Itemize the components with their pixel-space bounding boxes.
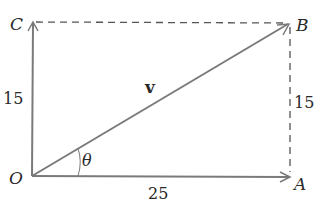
side-label-ab: 15 bbox=[294, 93, 314, 112]
vector-label-v: v bbox=[144, 77, 156, 97]
vector-diagram: C B O A 15 15 25 v θ bbox=[0, 0, 324, 207]
dashed-line-cb bbox=[36, 22, 286, 23]
angle-label-theta: θ bbox=[82, 151, 92, 170]
side-label-oc: 15 bbox=[3, 89, 23, 108]
angle-arc bbox=[78, 148, 80, 176]
point-label-b: B bbox=[295, 15, 309, 35]
point-label-a: A bbox=[292, 174, 306, 194]
point-label-o: O bbox=[9, 168, 23, 188]
vector-oa bbox=[32, 176, 289, 177]
point-label-c: C bbox=[10, 14, 23, 34]
side-label-oa: 25 bbox=[148, 184, 168, 203]
vector-v bbox=[32, 24, 288, 176]
vector-oc bbox=[32, 23, 33, 176]
